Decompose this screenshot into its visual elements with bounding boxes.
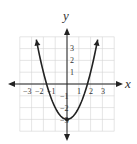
curve-arrow-icon	[94, 40, 100, 46]
arrow-up-icon	[64, 28, 70, 35]
y-tick-label: 3	[70, 44, 74, 53]
x-tick-label: −3	[23, 87, 32, 96]
arrow-right-icon	[116, 81, 123, 87]
arrow-down-icon	[64, 134, 70, 141]
y-tick-label: −2	[60, 104, 69, 113]
x-tick-label: −2	[35, 87, 44, 96]
y-tick-label: −1	[60, 92, 69, 101]
x-tick-label: 3	[101, 87, 105, 96]
x-tick-label: 2	[89, 87, 93, 96]
parabola-graph: x y −3 −2 −1 1 2 3 3 2 1 −1 −2 −3	[0, 0, 137, 144]
y-axis-label: y	[61, 8, 69, 23]
y-tick-label: 2	[70, 56, 74, 65]
x-tick-label: 1	[77, 87, 81, 96]
vertex-point	[65, 117, 69, 121]
y-tick-label: 1	[70, 68, 74, 77]
x-axis-label: x	[124, 76, 131, 91]
curve-arrow-icon	[35, 40, 41, 46]
arrow-left-icon	[8, 81, 15, 87]
